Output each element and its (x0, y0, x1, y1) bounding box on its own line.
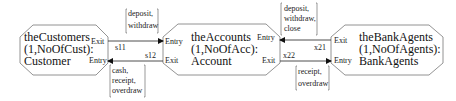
message-note-x22: receipt, overdraw (296, 66, 329, 90)
agents-entry-port[interactable]: Entry (334, 56, 352, 65)
connection-x22[interactable]: x22 (280, 51, 331, 61)
connection-label-s11: s11 (115, 43, 126, 52)
customers-type: Customer (24, 54, 71, 68)
agents-type: BankAgents (359, 54, 419, 68)
note-x21-line-3: close (284, 24, 301, 33)
connection-label-x22: x22 (283, 51, 295, 60)
connection-label-s12: s12 (145, 51, 156, 60)
accounts-entry-port-left[interactable]: Entry (165, 37, 183, 46)
message-note-x21: deposit, withdraw, close (281, 3, 317, 35)
note-x22-line-1: receipt, (298, 67, 322, 76)
customers-exit-port[interactable]: Exit (91, 37, 105, 46)
note-s11-line-2: withdraw (128, 21, 158, 30)
message-note-s12: cash, receipt, overdraw (110, 65, 145, 97)
agents-exit-port[interactable]: Exit (334, 36, 348, 45)
capsule-accounts[interactable]: theAccounts (1,NoOfAcc): Account Entry E… (163, 24, 280, 75)
customers-entry-port[interactable]: Entry (89, 56, 107, 65)
capsule-bankagents[interactable]: theBankAgents (1,NoOfAgents): BankAgents… (331, 25, 443, 75)
note-s11-line-1: deposit, (128, 9, 153, 18)
accounts-exit-port-left[interactable]: Exit (165, 56, 179, 65)
connection-label-x21: x21 (314, 43, 326, 52)
capsule-diagram: theCustomers (1,NoOfCust): Customer Exit… (0, 0, 456, 101)
note-s12-line-2: receipt, (112, 76, 136, 85)
note-s12-line-1: cash, (112, 66, 128, 75)
message-note-s11: deposit, withdraw (126, 9, 158, 33)
accounts-entry-port-right[interactable]: Entry (257, 33, 275, 42)
connection-s12[interactable]: s12 (108, 51, 163, 61)
accounts-exit-port-right[interactable]: Exit (262, 56, 276, 65)
note-x22-line-2: overdraw (298, 79, 328, 88)
note-s12-line-3: overdraw (112, 86, 142, 95)
accounts-type: Account (191, 54, 232, 68)
note-x21-line-1: deposit, (284, 4, 309, 13)
capsule-customers[interactable]: theCustomers (1,NoOfCust): Customer Exit… (20, 25, 108, 75)
note-x21-line-2: withdraw, (284, 14, 316, 23)
